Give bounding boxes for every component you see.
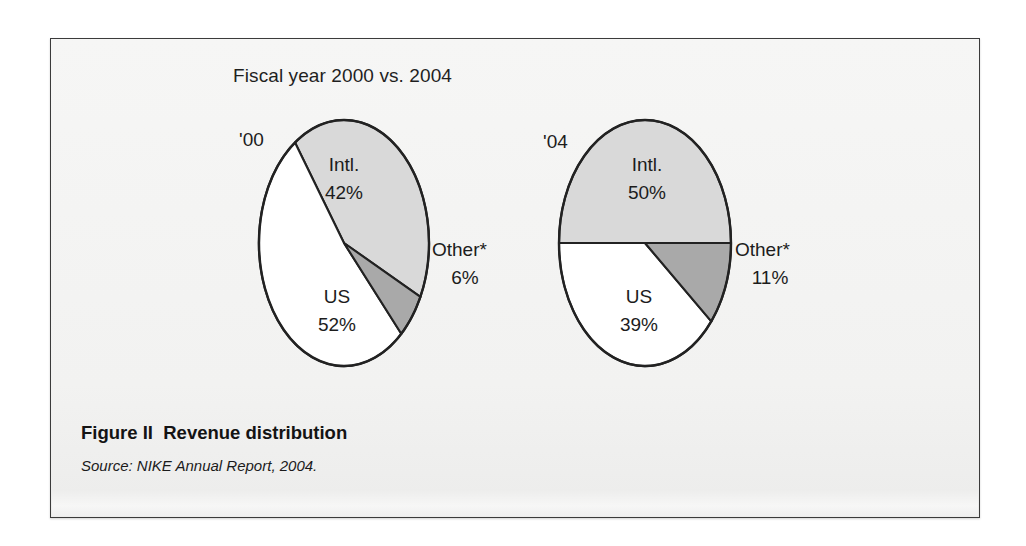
pie-2000-other-label: Other* — [432, 239, 488, 260]
pie-2000-year-label: '00 — [239, 129, 264, 150]
pie-2000-us-value: 52% — [318, 314, 356, 335]
figure-inner: Fiscal year 2000 vs. 2004 — [51, 39, 979, 517]
pie-charts-svg: '00 Intl. 42% US 52% Other* 6% — [51, 39, 981, 439]
pie-chart-2000: '00 Intl. 42% US 52% Other* 6% — [239, 120, 488, 366]
pie-2004-intl-label: Intl. — [632, 154, 663, 175]
page-canvas: Fiscal year 2000 vs. 2004 — [0, 0, 1026, 546]
pie-2000-us-label: US — [324, 286, 350, 307]
figure-caption-title: Revenue distribution — [163, 422, 347, 443]
pie-2004-us-value: 39% — [620, 314, 658, 335]
figure-number-label: Figure II — [81, 422, 153, 443]
figure-source-note: Source: NIKE Annual Report, 2004. — [81, 457, 721, 474]
panel-sheen — [52, 490, 978, 516]
pie-2000-other-value: 6% — [451, 267, 479, 288]
pie-2004-other-value: 11% — [752, 267, 789, 288]
pie-2004-intl-value: 50% — [628, 182, 666, 203]
pie-2000-intl-label: Intl. — [329, 154, 360, 175]
pie-2004-year-label: '04 — [543, 131, 568, 152]
figure-caption: Figure II Revenue distribution — [81, 422, 721, 444]
pie-2000-intl-value: 42% — [325, 182, 363, 203]
pie-charts-stage: '00 Intl. 42% US 52% Other* 6% — [51, 39, 981, 439]
pie-chart-2004: '04 Intl. 50% US 39% Other* 11% — [543, 120, 791, 366]
pie-2004-other-label: Other* — [735, 239, 791, 260]
pie-2004-us-label: US — [626, 286, 652, 307]
caption-block: Figure II Revenue distribution Source: N… — [81, 422, 721, 474]
figure-panel: Fiscal year 2000 vs. 2004 — [50, 38, 980, 518]
